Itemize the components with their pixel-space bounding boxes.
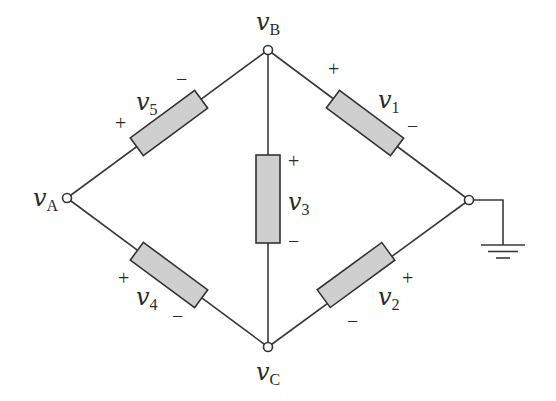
v1-plus-sign: +	[328, 58, 339, 80]
label-node-c: vC	[256, 358, 280, 388]
circuit-diagram: vA vB vC v5 + − v1 + − v3 + − v4 + − v2 …	[0, 0, 556, 401]
v4-plus-sign: +	[118, 267, 129, 289]
label-v1: v1	[378, 86, 400, 116]
label-v4: v4	[136, 283, 158, 313]
node-ground-terminal	[465, 196, 474, 205]
node-b-terminal	[264, 46, 273, 55]
v4-minus-sign: −	[172, 305, 183, 327]
resistor-v3-icon	[256, 155, 280, 243]
wire-ground	[469, 200, 503, 245]
element-v3	[256, 155, 280, 243]
label-v3: v3	[288, 188, 310, 218]
node-a-terminal	[63, 194, 72, 203]
v2-plus-sign: +	[402, 267, 413, 289]
label-node-b: vB	[256, 8, 280, 38]
v2-minus-sign: −	[347, 310, 358, 332]
label-v2: v2	[378, 283, 400, 313]
v3-minus-sign: −	[288, 230, 299, 252]
node-c-terminal	[264, 343, 273, 352]
v5-minus-sign: −	[176, 68, 187, 90]
v1-minus-sign: −	[407, 115, 418, 137]
label-v5: v5	[136, 88, 158, 118]
v3-plus-sign: +	[288, 150, 299, 172]
wires	[67, 50, 503, 347]
ground-icon	[481, 245, 525, 258]
v5-plus-sign: +	[115, 112, 126, 134]
label-node-a: vA	[33, 184, 59, 214]
